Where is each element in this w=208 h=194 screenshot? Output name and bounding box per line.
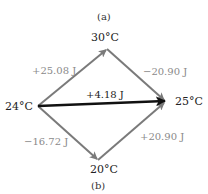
caption-a: (a) xyxy=(97,12,111,22)
node-left-temperature: 24°C xyxy=(5,101,33,112)
energy-direct-left-to-right: +4.18 J xyxy=(86,90,124,100)
energy-bottom-to-right: +20.90 J xyxy=(140,132,184,142)
node-bottom-temperature: 20°C xyxy=(90,164,118,175)
energy-top-to-right: −20.90 J xyxy=(143,67,187,77)
arrow-left-to-bottom xyxy=(38,106,97,159)
node-right-temperature: 25°C xyxy=(175,96,203,107)
energy-left-to-bottom: −16.72 J xyxy=(24,137,68,147)
arrow-direct-left-to-right xyxy=(38,101,165,106)
node-top-temperature: 30°C xyxy=(91,32,119,43)
caption-b: (b) xyxy=(91,181,105,191)
energy-left-to-top: +25.08 J xyxy=(32,66,76,76)
